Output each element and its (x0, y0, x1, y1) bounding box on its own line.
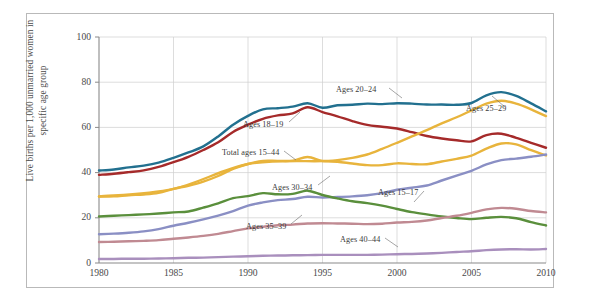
series-label-ages-30-34: Ages 30–34 (272, 183, 312, 192)
y-axis-title: Live births per 1,000 unmarried women in… (24, 1, 49, 201)
y-tick-label: 60 (65, 121, 91, 132)
y-axis-title-line1: Live births per 1,000 unmarried women in (25, 20, 35, 182)
x-tick-label: 1980 (79, 267, 119, 278)
y-tick-label: 40 (65, 166, 91, 177)
x-tick-label: 2010 (526, 267, 566, 278)
y-tick-label: 80 (65, 76, 91, 87)
series-label-ages-20-24: Ages 20–24 (336, 85, 376, 94)
series-label-ages-25-29: Ages 25–29 (466, 104, 506, 113)
chart-frame (26, 13, 554, 288)
series-label-ages-35-39: Ages 35–39 (246, 222, 286, 231)
series-label-ages-40-44: Ages 40–44 (340, 235, 380, 244)
y-axis-title-line2: specific age group (37, 66, 47, 136)
series-label-total-ages-15-44: Total ages 15–44 (222, 148, 279, 157)
series-label-ages-15-17: Ages 15–17 (378, 188, 418, 197)
y-tick-label: 100 (65, 31, 91, 42)
x-tick-label: 1985 (154, 267, 194, 278)
series-label-ages-18-19: Ages 18–19 (243, 120, 283, 129)
x-tick-label: 2005 (452, 267, 492, 278)
x-tick-label: 1990 (228, 267, 268, 278)
x-tick-label: 2000 (377, 267, 417, 278)
x-tick-label: 1995 (303, 267, 343, 278)
chart-container: Live births per 1,000 unmarried women in… (0, 0, 592, 301)
y-tick-label: 20 (65, 211, 91, 222)
y-tick-label: 0 (65, 257, 91, 268)
